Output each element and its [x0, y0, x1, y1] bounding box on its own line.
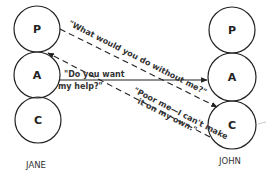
jane-parent-state: P [14, 6, 60, 52]
john-child-label: C [228, 119, 236, 132]
jane-adult-state: A [14, 52, 60, 98]
john-parent-label: P [228, 24, 236, 37]
john-name-label: JOHN [218, 156, 241, 166]
jane-child-label: C [34, 114, 42, 127]
jane-child-state: C [15, 97, 61, 143]
john-parent-state: P [209, 7, 255, 53]
jane-parent-label: P [33, 23, 41, 36]
stray-mark [258, 122, 266, 124]
jane-name-label: JANE [25, 160, 46, 170]
message-do-you-want-line2: my help?" [58, 82, 103, 91]
transactional-analysis-diagram: P A C JANE P A C JOHN "What [0, 0, 275, 177]
jane-ego-states: P A C JANE [14, 6, 61, 170]
jane-adult-label: A [33, 69, 42, 82]
message-do-you-want-line1: "Do you want [64, 70, 125, 79]
john-adult-label: A [228, 71, 237, 84]
john-ego-states: P A C JOHN [208, 7, 256, 166]
john-adult-state: A [208, 53, 256, 101]
